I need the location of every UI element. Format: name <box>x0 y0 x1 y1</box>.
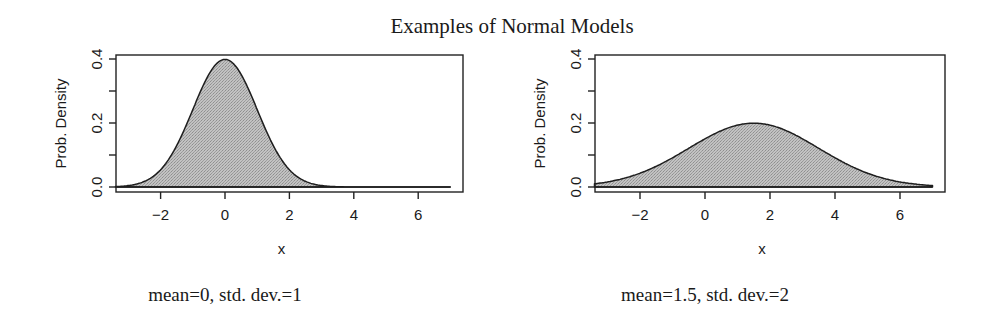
x-axis-label: x <box>758 240 766 257</box>
x-tick-label: −2 <box>631 206 648 223</box>
y-tick-label: 0.2 <box>567 113 584 134</box>
y-axis-label: Prob. Density <box>531 78 548 169</box>
density-area <box>116 59 451 187</box>
x-tick-label: 2 <box>285 206 293 223</box>
x-tick-label: 2 <box>766 206 774 223</box>
panel-left: −202460.00.20.4xProb. Densitymean=0, std… <box>52 49 463 305</box>
density-area <box>595 123 933 187</box>
x-tick-label: 6 <box>414 206 422 223</box>
y-tick-label: 0.4 <box>567 49 584 70</box>
y-tick-label: 0.4 <box>88 49 105 70</box>
x-axis-label: x <box>278 240 286 257</box>
x-tick-label: 6 <box>896 206 904 223</box>
y-tick-label: 0.0 <box>88 177 105 198</box>
y-tick-label: 0.0 <box>567 177 584 198</box>
panel-right: −202460.00.20.4xProb. Densitymean=1.5, s… <box>531 49 945 305</box>
figure: Examples of Normal Models −202460.00.20.… <box>0 0 995 331</box>
y-axis-label: Prob. Density <box>52 78 69 169</box>
x-tick-label: 0 <box>221 206 229 223</box>
panel-caption: mean=1.5, std. dev.=2 <box>621 284 789 305</box>
y-tick-label: 0.2 <box>88 113 105 134</box>
panel-caption: mean=0, std. dev.=1 <box>148 284 302 305</box>
x-tick-label: 4 <box>350 206 358 223</box>
figure-title: Examples of Normal Models <box>390 14 633 38</box>
x-tick-label: −2 <box>152 206 169 223</box>
x-tick-label: 0 <box>701 206 709 223</box>
x-tick-label: 4 <box>831 206 839 223</box>
